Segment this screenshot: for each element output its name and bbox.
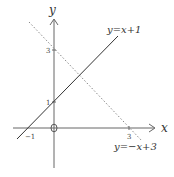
y-axis-label: y bbox=[48, 3, 56, 17]
tick-label-y-1: 1 bbox=[46, 99, 50, 107]
tick-label-y-3: 3 bbox=[46, 47, 50, 55]
coordinate-plane: y x 3 1 −1 3 y=x+1 y=−x+3 bbox=[0, 0, 174, 177]
equation-label-y-neg-x-plus-3: y=−x+3 bbox=[113, 141, 157, 152]
line-y-neg-x-plus-3 bbox=[29, 22, 142, 141]
tick-label-x-3: 3 bbox=[127, 133, 131, 141]
x-axis-label: x bbox=[161, 121, 168, 135]
line-y-x-plus-1 bbox=[17, 36, 118, 139]
tick-label-x-neg1: −1 bbox=[25, 133, 35, 141]
equation-label-y-x-plus-1: y=x+1 bbox=[106, 24, 141, 35]
